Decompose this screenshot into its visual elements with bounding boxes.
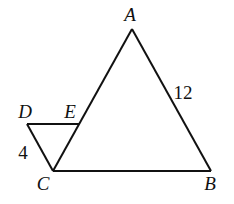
- geometry-figure: A B C D E 12 4: [0, 0, 234, 204]
- figure-svg: A B C D E 12 4: [0, 0, 234, 204]
- length-label-dc: 4: [18, 142, 28, 163]
- vertex-label-b: B: [204, 173, 216, 194]
- length-label-ab: 12: [174, 82, 193, 103]
- vertex-label-c: C: [37, 173, 50, 194]
- vertex-label-d: D: [17, 101, 32, 122]
- segment-ab: [132, 29, 211, 171]
- vertex-label-a: A: [122, 4, 136, 25]
- segment-ca: [53, 29, 132, 171]
- segment-dc: [27, 124, 53, 171]
- vertex-label-e: E: [63, 101, 76, 122]
